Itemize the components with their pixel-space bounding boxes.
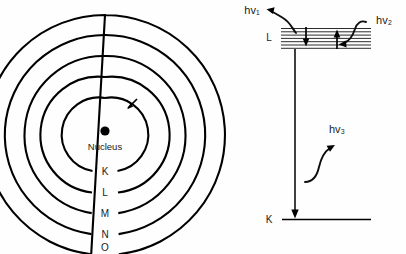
photon-curve-hv3: [305, 148, 330, 182]
nucleus-label: Nucleus: [88, 141, 123, 152]
photon-label-hv2: hv₂: [376, 14, 392, 26]
shell-label-M: M: [101, 208, 109, 219]
shell-label-L: L: [102, 187, 108, 198]
level-label-K: K: [266, 214, 273, 225]
nucleus-dot: [100, 126, 109, 135]
photon-label-hv3: hv₃: [329, 123, 345, 135]
shell-label-K: K: [102, 166, 109, 177]
shell-label-N: N: [101, 229, 108, 240]
level-label-L: L: [266, 32, 272, 43]
sublevel-arrowhead-up: [334, 30, 341, 38]
shell-ring-O: [0, 15, 225, 254]
figure-canvas: Nucleus K L M N O L K: [0, 0, 406, 254]
shell-label-O: O: [101, 242, 109, 253]
photon-curve-hv1: [271, 11, 296, 33]
bohr-atom-model: Nucleus K L M N O: [0, 15, 225, 254]
transition-arrowhead-L-to-K: [291, 210, 298, 219]
photon-label-hv1: hv₁: [244, 4, 260, 16]
energy-level-diagram: L K hv₁ hv₂ hv₃: [244, 4, 392, 225]
